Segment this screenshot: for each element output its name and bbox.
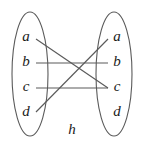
domain-element-b: b (22, 53, 30, 69)
function-name-label: h (68, 121, 76, 137)
domain-element-labels: a b c d (22, 28, 30, 119)
domain-element-a: a (22, 28, 30, 44)
codomain-element-b: b (113, 53, 121, 69)
codomain-element-c: c (114, 78, 121, 94)
codomain-element-d: d (113, 103, 121, 119)
function-mapping-diagram: a b c d a b c d h (0, 0, 145, 148)
domain-set-ellipse (12, 12, 48, 136)
codomain-element-labels: a b c d (113, 28, 121, 119)
diagram-canvas: a b c d a b c d h (0, 0, 145, 148)
domain-element-c: c (23, 78, 30, 94)
domain-element-d: d (22, 103, 30, 119)
codomain-element-a: a (113, 28, 121, 44)
